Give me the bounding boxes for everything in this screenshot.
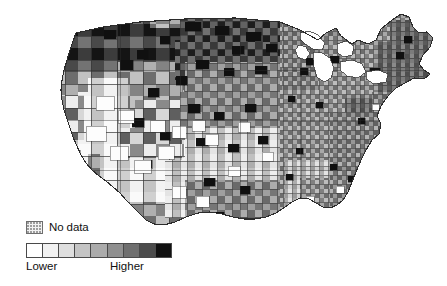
legend-lower-label: Lower: [26, 260, 57, 274]
ramp-step-2: [43, 244, 59, 257]
no-data-swatch-icon: [26, 221, 43, 234]
legend-color-ramp: [26, 243, 172, 258]
map-legend: No data Lower Higher: [24, 217, 176, 279]
ramp-step-3: [59, 244, 75, 257]
legend-no-data-row: No data: [26, 220, 89, 235]
legend-no-data-label: No data: [49, 222, 89, 234]
legend-ramp-labels: Lower Higher: [26, 260, 178, 276]
ramp-step-4: [75, 244, 91, 257]
ramp-step-7: [124, 244, 140, 257]
ramp-step-8: [140, 244, 156, 257]
legend-higher-label: Higher: [110, 260, 144, 274]
choropleth-figure: No data Lower Higher: [0, 0, 447, 286]
ramp-step-9: [156, 244, 171, 257]
ramp-step-5: [91, 244, 107, 257]
ramp-step-1: [27, 244, 43, 257]
ramp-step-6: [108, 244, 124, 257]
